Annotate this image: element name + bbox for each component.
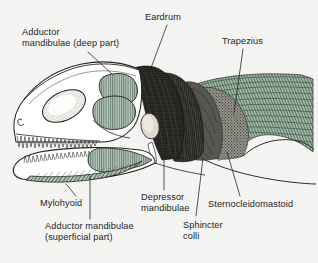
label-eardrum: Eardrum [145, 12, 181, 23]
label-sternocleidomastoid: Sternocleidomastoid [208, 199, 293, 210]
label-trapezius: Trapezius [222, 36, 263, 47]
adductor-mid-muscle [93, 96, 136, 130]
label-mylohyoid: Mylohyoid [40, 198, 82, 209]
anatomical-figure: Adductor mandibulae (deep part) Eardrum … [0, 0, 318, 263]
label-depressor-mandibulae: Depressor mandibulae [141, 192, 190, 214]
label-adductor-mandibulae-deep-part: Adductor mandibulae (deep part) [22, 27, 119, 49]
label-sphincter-colli: Sphincter colli [183, 220, 223, 242]
label-adductor-mandibulae-superficial-part: Adductor mandibulae (superficial part) [45, 221, 134, 243]
